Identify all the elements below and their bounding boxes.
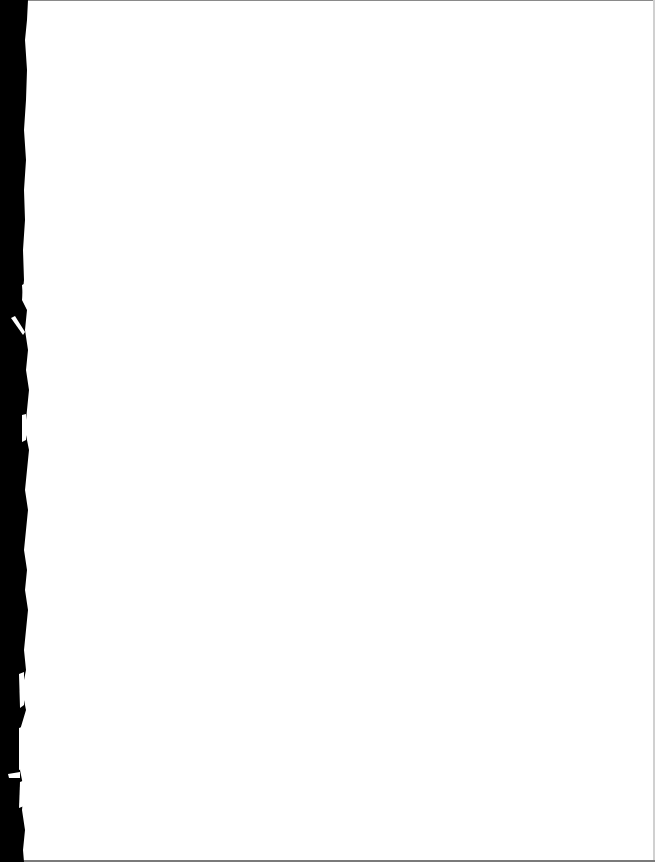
top-border-line (28, 0, 655, 1)
scan-dark-edge (0, 0, 40, 862)
blank-page-content (36, 2, 651, 858)
scanned-page (0, 0, 655, 862)
